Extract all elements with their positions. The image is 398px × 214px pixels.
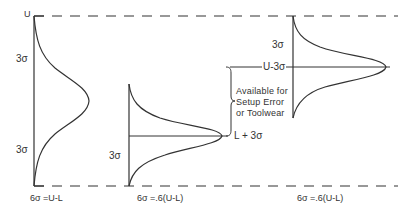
curve-full-top-sigma-label: 3σ — [16, 54, 28, 64]
bracket-note: Available for Setup Error or Toolwear — [236, 86, 288, 119]
curve-high-sigma-label: 3σ — [272, 40, 284, 50]
bracket-note-line1: Available for — [236, 86, 288, 97]
tolerance-bracket-icon — [226, 67, 235, 136]
curve-high-mean-label: U-3σ — [262, 62, 286, 72]
curve-high-caption: 6σ =.6(U-L) — [297, 194, 343, 203]
curve-low-mean-label: L + 3σ — [234, 131, 262, 141]
curve-full-caption: 6σ =U-L — [30, 194, 63, 203]
curve-full-bell — [34, 16, 89, 186]
curve-low-bell — [129, 84, 222, 186]
curve-low-caption: 6σ =.6(U-L) — [137, 194, 183, 203]
curve-full-bottom-sigma-label: 3σ — [16, 145, 28, 155]
bracket-note-line2: Setup Error — [236, 97, 288, 108]
curve-low-sigma-label: 3σ — [109, 151, 121, 161]
upper-limit-label: U — [24, 10, 31, 19]
process-capability-diagram — [0, 0, 398, 214]
bracket-note-line3: or Toolwear — [236, 108, 288, 119]
